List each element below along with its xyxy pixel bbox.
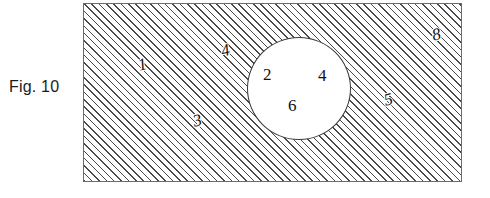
circular-bore-region: [247, 37, 351, 140]
reference-numeral-4-inner: 4: [318, 67, 327, 84]
reference-numeral-2: 2: [263, 66, 272, 83]
patent-figure: Fig. 10 1 4 3 2 4 6 5 8: [0, 0, 490, 198]
figure-caption: Fig. 10: [9, 78, 59, 96]
reference-numeral-6: 6: [288, 97, 297, 114]
